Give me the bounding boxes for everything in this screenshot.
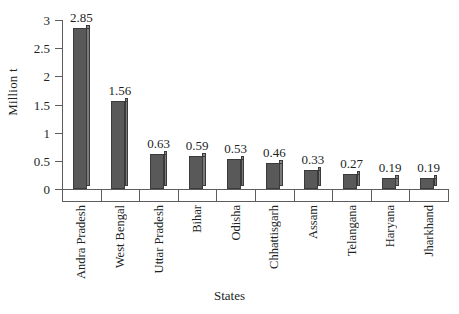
bar-chart: Million t 00.511.522.53 2.851.560.630.59…	[0, 0, 459, 314]
x-axis-divider	[101, 189, 102, 202]
bar-top-face	[86, 25, 89, 29]
bar-side-face	[241, 156, 244, 186]
x-axis-category-label: West Bengal	[114, 205, 126, 268]
x-axis-divider	[409, 189, 410, 202]
y-tick-mark	[55, 189, 62, 190]
y-tick-label-text: 1	[0, 127, 50, 140]
x-axis-category-label: Andra Pradesh	[75, 205, 87, 279]
bar-slot	[178, 20, 217, 189]
y-tick-label: 1.5	[0, 99, 50, 111]
plot-area: 2.851.560.630.590.530.460.330.270.190.19	[62, 20, 448, 189]
bar	[304, 170, 321, 189]
bar-front-face	[189, 156, 203, 189]
y-tick-mark	[55, 161, 62, 162]
x-axis-category-label: Bihar	[191, 205, 203, 233]
x-axis-category-label: Chhattisgarh	[268, 205, 280, 269]
x-axis-divider	[216, 189, 217, 202]
y-tick-mark	[55, 76, 62, 77]
bar-front-face	[382, 178, 396, 189]
bar	[111, 101, 128, 189]
bar-top-face	[434, 175, 437, 179]
bar-front-face	[266, 163, 280, 189]
x-axis-divider	[62, 189, 63, 202]
y-tick-label: 0	[0, 183, 50, 195]
x-axis-divider	[294, 189, 295, 202]
bar	[420, 178, 437, 189]
x-axis-divider	[371, 189, 372, 202]
bar-top-face	[395, 175, 398, 179]
x-axis-divider	[448, 189, 449, 202]
bar-side-face	[202, 153, 205, 186]
x-axis-category-label: Assam	[307, 205, 319, 239]
y-tick-mark	[55, 105, 62, 106]
bar-front-face	[111, 101, 125, 189]
x-axis-category-label: Uttar Pradesh	[153, 205, 165, 273]
y-tick-label: 1	[0, 127, 50, 139]
y-tick-label-text: 2.5	[0, 42, 50, 55]
y-tick-label: 3	[0, 14, 50, 26]
x-axis-divider	[332, 189, 333, 202]
bar-front-face	[227, 159, 241, 189]
bar-front-face	[343, 174, 357, 189]
y-axis-title: Million t	[5, 55, 21, 129]
x-axis-category-label: Haryana	[384, 205, 396, 247]
bar-value-label: 0.19	[399, 161, 459, 174]
y-tick-label-text: 1.5	[0, 99, 50, 112]
x-axis-divider	[139, 189, 140, 202]
bar	[343, 174, 360, 189]
bar-side-face	[164, 151, 167, 186]
bar-slot	[139, 20, 178, 189]
y-tick-label: 2	[0, 70, 50, 82]
bar-front-face	[304, 170, 318, 189]
bar	[382, 178, 399, 189]
y-tick-label-text: 0.5	[0, 155, 50, 168]
y-tick-label-text: 3	[0, 14, 50, 27]
bar	[73, 28, 90, 189]
bar-front-face	[150, 154, 164, 189]
bar-front-face	[73, 28, 87, 189]
y-tick-label-text: 2	[0, 70, 50, 83]
y-tick-label: 2.5	[0, 42, 50, 54]
x-axis-title: States	[0, 288, 459, 304]
y-tick-mark	[55, 133, 62, 134]
y-tick-label-text: 0	[0, 183, 50, 196]
x-axis-category-label: Telangana	[346, 205, 358, 256]
bar	[150, 154, 167, 189]
x-axis-category-label: Jharkhand	[423, 205, 435, 256]
bar-side-face	[86, 25, 89, 186]
bar	[266, 163, 283, 189]
bar-top-face	[125, 98, 128, 102]
x-axis-divider	[255, 189, 256, 202]
x-axis-category-label: Odisha	[230, 205, 242, 240]
bar-slot	[101, 20, 140, 189]
bar	[227, 159, 244, 189]
bar	[189, 156, 206, 189]
y-tick-label: 0.5	[0, 155, 50, 167]
bar-slot	[216, 20, 255, 189]
y-tick-mark	[55, 48, 62, 49]
bar-slot	[62, 20, 101, 189]
x-axis-divider	[178, 189, 179, 202]
bar-front-face	[420, 178, 434, 189]
